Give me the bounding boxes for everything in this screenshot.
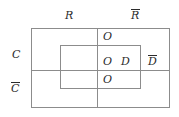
column-label-r-bar-text: R (131, 9, 139, 21)
column-label-r-bar: R (131, 9, 139, 21)
venn-box-diagram: R R C C O O D D O (0, 0, 179, 117)
row-label-c-bar: C (11, 82, 19, 94)
cell-label-o-middle-text: O (103, 55, 112, 68)
cell-label-o-middle: O (103, 56, 112, 67)
row-label-c-bar-text: C (11, 82, 19, 94)
row-label-c: C (12, 49, 20, 60)
cell-label-d-middle: D (121, 56, 130, 67)
row-label-c-text: C (12, 48, 20, 61)
cell-label-d-middle-text: D (121, 55, 130, 68)
cell-label-o-top: O (103, 31, 112, 42)
column-label-r-text: R (65, 9, 73, 22)
cell-label-o-bottom: O (103, 74, 112, 85)
cell-label-o-bottom-text: O (103, 73, 112, 86)
cell-label-d-bar-text: D (148, 55, 157, 67)
cell-label-d-bar: D (148, 55, 157, 67)
column-label-r: R (65, 10, 73, 21)
cell-label-o-top-text: O (103, 30, 112, 43)
